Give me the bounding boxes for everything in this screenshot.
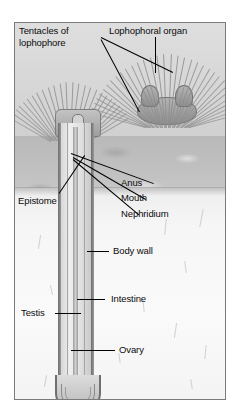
label-intestine: Intestine [111,293,146,305]
body-tube-tip [55,375,101,400]
testis-strand [67,123,68,378]
label-anus: Anus [121,177,142,189]
leader-line-intestine [77,299,105,300]
leader-line-testis [55,313,81,314]
label-body-wall: Body wall [113,245,153,257]
leader-line-body-wall [87,251,109,252]
anatomy-figure: Tentacles of lophophore Lophophoral orga… [14,22,226,400]
label-mouth: Mouth [121,192,147,204]
label-lophophoral-organ: Lophophoral organ [109,25,187,37]
leader-line-lophophoral-organ [155,37,156,73]
nephridium-strand [84,123,85,378]
label-ovary: Ovary [119,344,144,356]
tube-tip-ring-inner [65,387,91,400]
label-tentacles-of-lophophore: Tentacles of lophophore [19,25,69,48]
label-testis: Testis [21,307,45,319]
label-epistome: Epistome [18,195,57,207]
leader-line-ovary [71,350,115,351]
lophophoral-organ-illustration [115,51,219,127]
label-nephridium: Nephridium [121,208,169,220]
